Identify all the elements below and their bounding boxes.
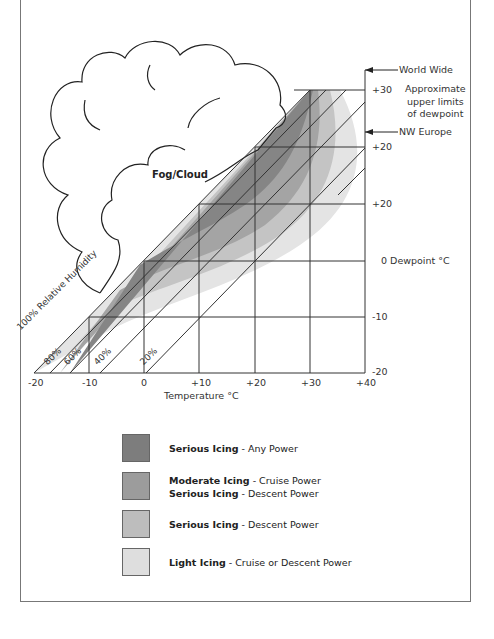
world-wide-label: World Wide [399, 64, 453, 75]
y-tick-label: +20 [372, 141, 392, 152]
x-tick-label: +20 [246, 377, 266, 388]
legend-swatch [122, 472, 150, 500]
legend-item-serious-descent: Serious Icing - Descent Power [122, 510, 150, 538]
legend-item-light: Light Icing - Cruise or Descent Power [122, 548, 150, 576]
y-tick-label: -20 [372, 366, 388, 377]
x-tick-label: +30 [301, 377, 321, 388]
legend-item-serious-any: Serious Icing - Any Power [122, 434, 150, 462]
legend-swatch [122, 548, 150, 576]
x-tick-label: -20 [28, 377, 44, 388]
arrow-icon [365, 67, 373, 73]
arrow-icon [365, 129, 373, 135]
x-tick-label: +40 [356, 377, 376, 388]
upper-limit-arrows [365, 67, 398, 135]
x-tick-label: -10 [82, 377, 98, 388]
legend-swatch [122, 434, 150, 462]
nw-europe-label: NW Europe [399, 126, 452, 137]
legend-swatch [122, 510, 150, 538]
icing-regions [34, 90, 357, 373]
fog-cloud-label: Fog/Cloud [152, 169, 208, 180]
x-tick-label: 0 [141, 377, 147, 388]
y-tick-label: -10 [372, 311, 388, 322]
upper-limits-note: Approximate upper limits of dewpoint [405, 83, 466, 121]
y-tick-label: +20 [372, 198, 392, 209]
y-axis-label: 0 Dewpoint °C [381, 255, 450, 266]
x-axis-label: Temperature °C [164, 390, 239, 401]
y-tick-label: +30 [372, 84, 392, 95]
legend-item-moderate: Moderate Icing - Cruise Power Serious Ic… [122, 472, 150, 500]
x-tick-label: +10 [191, 377, 211, 388]
